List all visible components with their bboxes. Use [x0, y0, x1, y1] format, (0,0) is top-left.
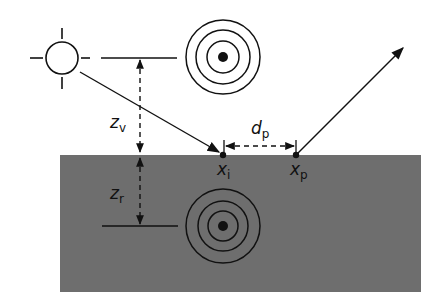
medium-slab — [60, 155, 421, 292]
exit-point-xp — [293, 152, 299, 158]
sun-icon — [30, 28, 90, 89]
entry-point-xi — [220, 152, 226, 158]
label-zv: zv — [109, 112, 126, 135]
virtual-source-icon — [186, 20, 260, 94]
dp-dimension-arrow — [224, 140, 296, 152]
dipole-diagram: zv zr dp xi xp — [0, 0, 438, 303]
exit-ray-arrow — [296, 48, 403, 155]
label-dp: dp — [251, 118, 269, 141]
